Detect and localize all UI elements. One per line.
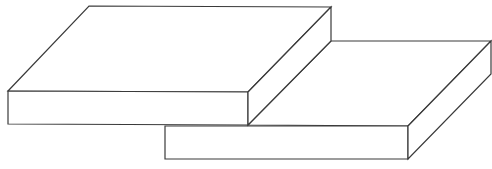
slab-upper-left-front-face	[8, 91, 248, 125]
slab-lower-right-front-face	[165, 126, 408, 159]
two-slabs-diagram	[0, 0, 492, 169]
